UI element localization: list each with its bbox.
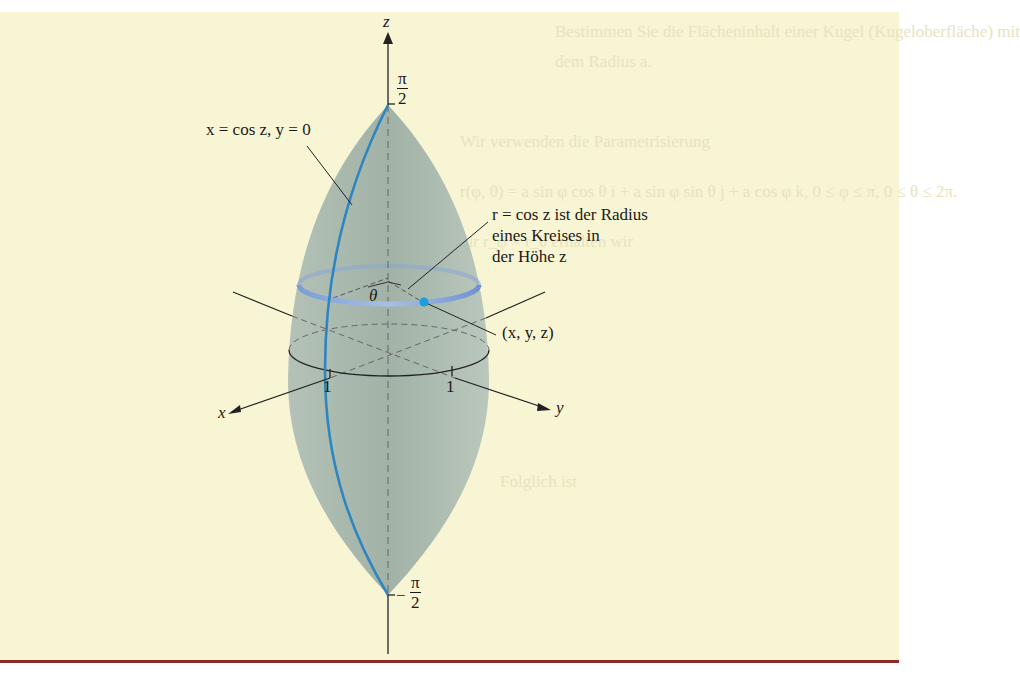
radius-annotation-line2: eines Kreises in [492,226,600,246]
curve-annotation: x = cos z, y = 0 [206,120,311,140]
page-bottom-rule [0,660,899,663]
z-top-num: π [397,70,408,89]
x-axis-label: x [218,403,226,423]
radius-annotation-line1: r = cos z ist der Radius [492,205,648,225]
z-axis-label: z [383,12,390,32]
y-axis-upper [486,292,545,318]
point-label: (x, y, z) [502,323,554,343]
z-top-den: 2 [397,89,408,107]
x-tick-label: 1 [323,377,332,397]
radius-annotation-line3: der Höhe z [492,247,567,267]
y-axis-label: y [556,398,564,418]
x-axis-upper [233,292,292,316]
y-arrowhead [537,403,551,411]
point-marker [420,298,429,307]
z-bottom-num: π [410,574,421,593]
z-bottom-tick-label: π 2 [410,574,421,611]
y-tick-label: 1 [446,377,455,397]
z-bottom-den: 2 [410,593,421,611]
theta-label: θ [369,286,377,306]
z-bottom-tick-sign: − [396,586,406,606]
z-top-tick-label: π 2 [397,70,408,107]
z-arrowhead [383,32,393,44]
x-arrowhead [228,405,241,414]
